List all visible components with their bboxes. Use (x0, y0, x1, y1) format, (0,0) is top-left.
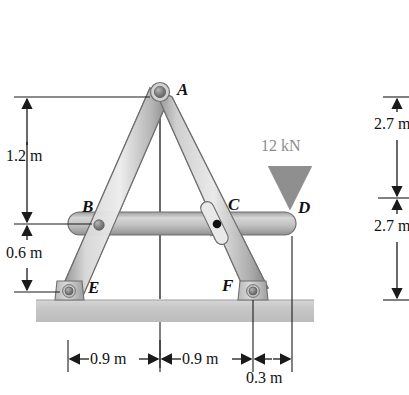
pin-joint-a (151, 83, 170, 102)
ground-surface (36, 300, 314, 322)
support-e (55, 281, 84, 300)
joint-label-d: D (298, 199, 310, 216)
frame-diagram: A B C D E F 12 kN 1.2 m 0.6 m 0.9 m 0.9 … (0, 0, 409, 395)
dimension-label-bottom-right: 0.3 m (246, 370, 282, 386)
joint-label-a: A (177, 81, 188, 98)
joint-label-e: E (88, 279, 99, 296)
dimension-label-right-lower: 2.7 m (374, 218, 409, 234)
load-label-12kn: 12 kN (261, 138, 301, 154)
dimension-label-left-lower: 0.6 m (6, 245, 42, 261)
dimension-label-bottom-mid: 0.9 m (182, 351, 218, 367)
member-af-overlay (154, 88, 268, 298)
diagram-canvas (0, 0, 409, 395)
joint-label-c: C (228, 196, 239, 213)
dimension-label-left-upper: 1.2 m (6, 148, 42, 164)
dimension-label-bottom-left: 0.9 m (90, 351, 126, 367)
joint-label-b: B (82, 198, 93, 215)
dimension-label-right-upper: 2.7 m (374, 116, 409, 132)
member-ae-overlay (62, 88, 168, 298)
support-f (238, 281, 268, 300)
joint-label-f: F (222, 277, 233, 294)
pin-joint-b (94, 220, 104, 230)
